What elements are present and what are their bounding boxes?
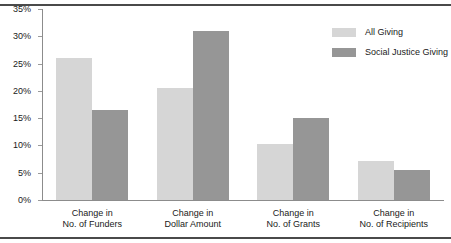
legend-swatch-social-justice-giving — [332, 48, 356, 57]
x-axis-category-label: Change inDollar Amount — [143, 208, 244, 230]
y-axis-tick-label: 0% — [0, 195, 31, 205]
bottom-divider — [0, 237, 451, 239]
legend-label-all-giving: All Giving — [365, 27, 403, 37]
y-axis-tick-label: 30% — [0, 31, 31, 41]
legend-item-social-justice-giving: Social Justice Giving — [332, 44, 448, 60]
x-axis-category-label: Change inNo. of Recipients — [344, 208, 445, 230]
legend-label-social-justice-giving: Social Justice Giving — [365, 47, 448, 57]
top-divider — [0, 4, 451, 6]
bar-chart: 0%5%10%15%20%25%30%35% Change inNo. of F… — [0, 0, 451, 243]
y-axis-tick-label: 15% — [0, 113, 31, 123]
legend-swatch-all-giving — [332, 28, 356, 37]
bar — [394, 170, 430, 200]
y-axis-tick-label: 5% — [0, 168, 31, 178]
y-axis-tick-label: 20% — [0, 86, 31, 96]
bar — [257, 144, 293, 200]
legend-item-all-giving: All Giving — [332, 24, 448, 40]
legend: All Giving Social Justice Giving — [332, 24, 448, 64]
bar — [157, 88, 193, 200]
bar — [56, 58, 92, 200]
bar — [193, 31, 229, 200]
x-axis-category-label: Change inNo. of Grants — [243, 208, 344, 230]
bar — [358, 161, 394, 200]
y-axis-tick-label: 10% — [0, 140, 31, 150]
bar — [293, 118, 329, 200]
bar — [92, 110, 128, 200]
y-axis-tick-label: 25% — [0, 59, 31, 69]
x-axis-category-label: Change inNo. of Funders — [42, 208, 143, 230]
y-axis-tick-label: 35% — [0, 4, 31, 14]
